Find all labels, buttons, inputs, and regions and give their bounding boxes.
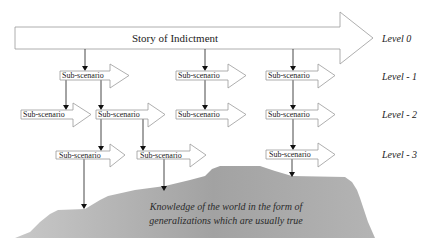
scenario-hierarchy-diagram: Story of Indictment Level 0 Level - 1 Le… bbox=[0, 0, 434, 248]
scenario-label: Sub-scenario bbox=[140, 151, 182, 160]
scenario-label: Sub-scenario bbox=[62, 71, 104, 80]
scenario-label: Sub-scenario bbox=[178, 71, 220, 80]
arrowhead-icon bbox=[81, 204, 87, 209]
scenario-label: Sub-scenario bbox=[178, 110, 220, 119]
level-0-label: Level 0 bbox=[381, 33, 411, 44]
scenario-label: Sub-scenario bbox=[269, 150, 311, 159]
level-2-scenarios: Sub-scenario Sub-scenario Sub-scenario S… bbox=[21, 103, 335, 127]
level-3-label: Level - 3 bbox=[381, 149, 417, 160]
level-2-label: Level - 2 bbox=[381, 109, 417, 120]
level-1-label: Level - 1 bbox=[381, 71, 417, 82]
scenario-label: Sub-scenario bbox=[59, 151, 101, 160]
scenario-label: Sub-scenario bbox=[268, 71, 310, 80]
main-story-label: Story of Indictment bbox=[132, 32, 218, 44]
knowledge-text-line-1: Knowledge of the world in the form of bbox=[149, 201, 304, 212]
scenario-label: Sub-scenario bbox=[23, 110, 65, 119]
knowledge-text-line-2: generalizations which are usually true bbox=[149, 215, 303, 226]
scenario-label: Sub-scenario bbox=[98, 110, 140, 119]
scenario-label: Sub-scenario bbox=[268, 110, 310, 119]
